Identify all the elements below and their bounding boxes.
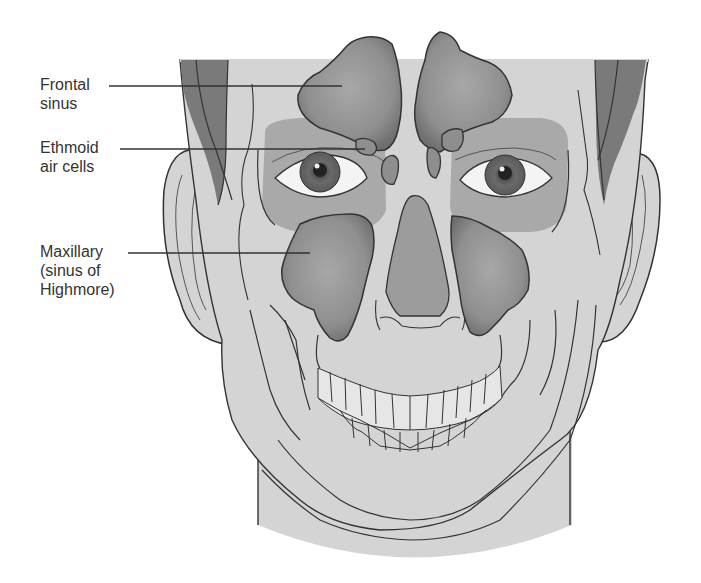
ethmoid-cell-right-upper bbox=[442, 129, 463, 152]
label-maxillary-line3: Highmore) bbox=[40, 280, 115, 299]
ethmoid-cell-right-lower bbox=[427, 148, 441, 178]
ethmoid-cell-left-lower bbox=[382, 155, 399, 184]
label-maxillary-line2: (sinus of bbox=[40, 261, 115, 280]
ethmoid-cell-left-upper bbox=[356, 138, 377, 155]
label-frontal-line2: sinus bbox=[40, 94, 90, 113]
label-ethmoid-air-cells: Ethmoid air cells bbox=[40, 138, 99, 176]
label-frontal-sinus: Frontal sinus bbox=[40, 75, 90, 113]
label-ethmoid-line1: Ethmoid bbox=[40, 138, 99, 157]
label-maxillary-line1: Maxillary bbox=[40, 242, 115, 261]
label-frontal-line1: Frontal bbox=[40, 75, 90, 94]
label-maxillary-sinus: Maxillary (sinus of Highmore) bbox=[40, 242, 115, 299]
label-ethmoid-line2: air cells bbox=[40, 157, 99, 176]
